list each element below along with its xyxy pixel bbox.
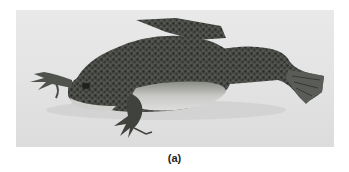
figure: (a) [0,0,349,172]
frog-photo [16,10,334,147]
frog-illustration [16,10,334,147]
figure-caption: (a) [0,152,349,164]
